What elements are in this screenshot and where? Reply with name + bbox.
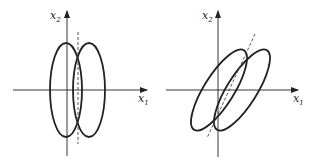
right-panel: x2 x1	[166, 9, 304, 157]
left-panel: x2 x1	[13, 9, 149, 156]
diagram-svg: x2 x1 x2 x1	[0, 0, 312, 168]
left-y-label: x2	[50, 9, 61, 24]
left-x-label: x1	[138, 92, 149, 107]
right-y-label: x2	[202, 9, 213, 24]
figure: x2 x1 x2 x1	[0, 0, 312, 168]
right-dashed-line	[207, 34, 255, 138]
right-x-label: x1	[293, 92, 304, 107]
